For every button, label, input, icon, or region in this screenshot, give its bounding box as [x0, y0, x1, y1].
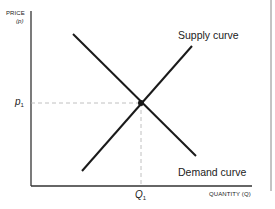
demand-curve-label: Demand curve: [178, 166, 246, 178]
supply-curve: [82, 46, 192, 171]
equilibrium-quantity-label: Q1: [135, 189, 146, 201]
demand-curve: [73, 34, 196, 156]
y-axis-symbol: (p): [16, 18, 24, 24]
equilibrium-price-label: p1: [15, 96, 24, 108]
quantity-subscript: 1: [143, 195, 146, 201]
equilibrium-point: [138, 100, 144, 106]
quantity-letter: Q: [135, 189, 143, 200]
x-axis-label: QUANTITY (Q): [209, 191, 251, 197]
y-axis-label: PRICE: [6, 10, 25, 16]
price-subscript: 1: [21, 102, 24, 108]
supply-curve-label: Supply curve: [178, 29, 239, 41]
